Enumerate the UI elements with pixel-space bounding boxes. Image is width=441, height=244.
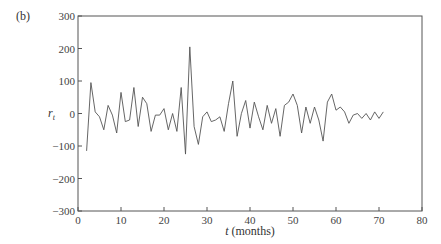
x-axis-label: t (months) (225, 224, 275, 238)
data-series-line (87, 47, 384, 154)
y-axis-label: rt (48, 106, 56, 122)
y-tick-label: −200 (52, 173, 75, 185)
x-tick-label: 80 (417, 214, 429, 226)
y-tick-label: 100 (59, 75, 76, 87)
x-tick-label: 50 (288, 214, 300, 226)
y-tick-label: −300 (52, 205, 75, 217)
plot-frame (78, 16, 422, 211)
x-tick-label: 0 (75, 214, 81, 226)
line-chart: (b) −300−200−1000100200300 0102030405060… (0, 0, 441, 244)
x-tick-label: 70 (374, 214, 386, 226)
x-tick-label: 10 (116, 214, 128, 226)
x-tick-label: 30 (202, 214, 214, 226)
x-tick-label: 20 (159, 214, 171, 226)
y-tick-label: 300 (59, 10, 76, 22)
panel-label: (b) (16, 9, 30, 23)
y-tick-label: −100 (52, 140, 75, 152)
y-tick-label: 200 (59, 43, 76, 55)
y-tick-label: 0 (70, 108, 76, 120)
x-tick-label: 60 (331, 214, 343, 226)
